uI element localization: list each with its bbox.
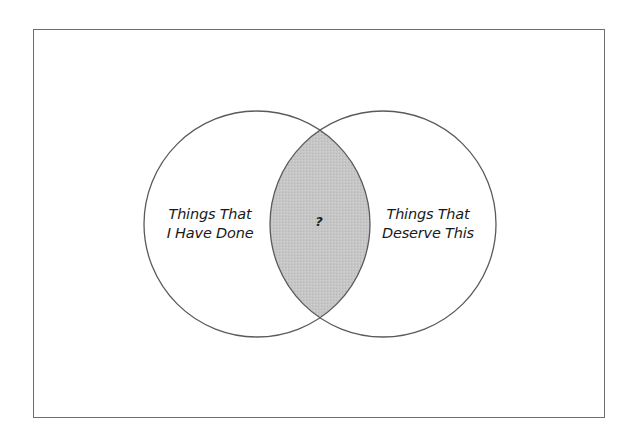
left-set-label-line-2: I Have Done (145, 224, 275, 243)
intersection-label: ? (309, 214, 329, 229)
left-set-label: Things That I Have Done (145, 205, 275, 243)
right-set-label-line-1: Things That (363, 205, 493, 224)
left-set-label-line-1: Things That (145, 205, 275, 224)
right-set-label-line-2: Deserve This (363, 224, 493, 243)
right-set-label: Things That Deserve This (363, 205, 493, 243)
